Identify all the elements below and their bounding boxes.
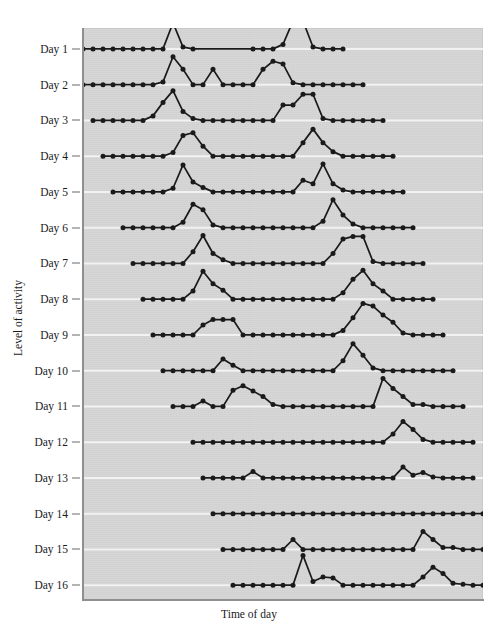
data-point-marker <box>281 154 286 159</box>
data-point-marker <box>161 189 166 194</box>
data-point-marker <box>281 404 286 409</box>
data-point-marker <box>211 368 216 373</box>
y-tick-label-8: Day 8 <box>40 293 68 305</box>
y-tick-mark <box>72 120 80 121</box>
data-point-marker <box>191 202 196 207</box>
data-point-marker <box>351 154 356 159</box>
series-line <box>153 303 443 335</box>
y-axis-line <box>82 28 84 600</box>
data-point-marker <box>341 583 346 588</box>
series-line <box>133 235 423 263</box>
data-point-marker <box>301 140 306 145</box>
data-point-marker <box>301 297 306 302</box>
data-point-marker <box>251 440 256 445</box>
data-point-marker <box>171 261 176 266</box>
data-point-marker <box>141 46 146 51</box>
data-point-marker <box>181 332 186 337</box>
data-point-marker <box>261 225 266 230</box>
data-point-marker <box>321 297 326 302</box>
data-point-marker <box>311 297 316 302</box>
data-point-marker <box>331 181 336 186</box>
data-point-marker <box>431 565 436 570</box>
data-point-marker <box>341 547 346 552</box>
data-point-marker <box>351 315 356 320</box>
data-point-marker <box>301 511 306 516</box>
data-point-marker <box>411 368 416 373</box>
data-point-marker <box>141 82 146 87</box>
data-point-marker <box>291 404 296 409</box>
data-point-marker <box>391 583 396 588</box>
data-point-marker <box>291 189 296 194</box>
data-point-marker <box>241 383 246 388</box>
data-point-marker <box>161 225 166 230</box>
data-point-marker <box>431 297 436 302</box>
data-point-marker <box>291 583 296 588</box>
data-point-marker <box>451 581 456 586</box>
data-point-marker <box>191 46 196 51</box>
data-point-marker <box>201 82 206 87</box>
data-point-marker <box>231 297 236 302</box>
data-point-marker <box>171 150 176 155</box>
data-point-marker <box>211 475 216 480</box>
data-point-marker <box>271 440 276 445</box>
data-point-marker <box>281 511 286 516</box>
data-point-marker <box>341 154 346 159</box>
data-point-marker <box>431 404 436 409</box>
data-point-marker <box>151 261 156 266</box>
data-point-marker <box>121 118 126 123</box>
data-point-marker <box>401 297 406 302</box>
series-line <box>123 200 413 228</box>
data-point-marker <box>261 154 266 159</box>
data-point-marker <box>121 154 126 159</box>
data-point-marker <box>181 133 186 138</box>
data-point-marker <box>471 547 476 552</box>
y-tick-label-9: Day 9 <box>40 329 68 341</box>
data-point-marker <box>171 88 176 93</box>
data-point-marker <box>251 154 256 159</box>
data-point-marker <box>241 261 246 266</box>
data-point-marker <box>431 474 436 479</box>
data-point-marker <box>341 118 346 123</box>
y-tick-mark <box>72 263 80 264</box>
data-point-marker <box>371 304 376 309</box>
data-point-marker <box>111 189 116 194</box>
data-point-marker <box>241 82 246 87</box>
y-tick-mark <box>72 549 80 550</box>
data-point-marker <box>241 547 246 552</box>
y-tick-label-5: Day 5 <box>40 186 68 198</box>
data-point-marker <box>381 225 386 230</box>
data-point-marker <box>241 368 246 373</box>
data-point-marker <box>181 220 186 225</box>
data-point-marker <box>241 511 246 516</box>
data-point-marker <box>171 368 176 373</box>
data-point-marker <box>321 82 326 87</box>
data-point-marker <box>391 297 396 302</box>
data-point-marker <box>191 368 196 373</box>
data-point-marker <box>291 261 296 266</box>
data-point-marker <box>131 118 136 123</box>
data-point-marker <box>391 320 396 325</box>
data-point-marker <box>251 511 256 516</box>
data-point-marker <box>281 42 286 47</box>
series-line <box>83 28 343 49</box>
data-point-marker <box>241 583 246 588</box>
data-point-marker <box>461 582 466 587</box>
data-point-marker <box>381 511 386 516</box>
data-point-marker <box>401 419 406 424</box>
data-point-marker <box>371 511 376 516</box>
data-point-marker <box>401 583 406 588</box>
data-point-marker <box>221 189 226 194</box>
data-point-marker <box>231 388 236 393</box>
data-point-marker <box>201 368 206 373</box>
data-point-marker <box>161 46 166 51</box>
data-point-marker <box>461 404 466 409</box>
data-point-marker <box>451 475 456 480</box>
data-point-marker <box>261 46 266 51</box>
data-point-marker <box>351 583 356 588</box>
data-point-marker <box>421 437 426 442</box>
data-point-marker <box>171 225 176 230</box>
data-point-marker <box>271 547 276 552</box>
data-point-marker <box>421 332 426 337</box>
data-point-marker <box>201 144 206 149</box>
x-axis-title: Time of day <box>0 608 498 620</box>
